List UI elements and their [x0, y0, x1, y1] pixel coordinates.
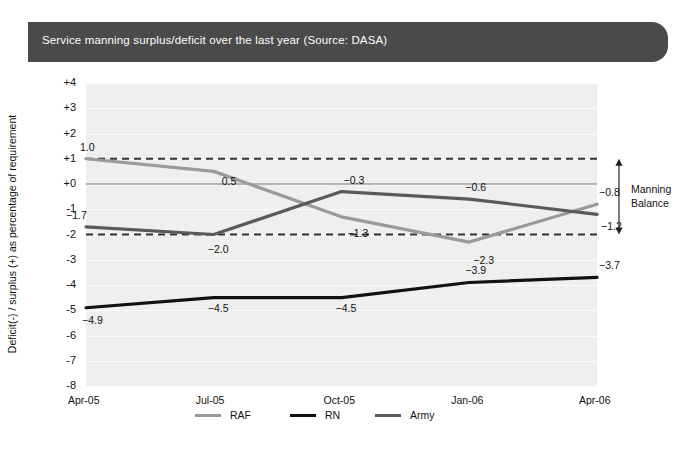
legend-swatch-icon — [290, 414, 316, 417]
legend-swatch-icon — [195, 414, 221, 417]
legend-label: RAF — [230, 409, 251, 421]
title-banner: Service manning surplus/deficit over the… — [28, 22, 668, 62]
chart-legend: RAFRNArmy — [0, 409, 690, 433]
chart-container: Deficit(-) / surplus (+) as percentage o… — [0, 70, 690, 462]
manning-balance-line2: Balance — [631, 196, 671, 210]
legend-item-army[interactable]: Army — [375, 409, 435, 421]
chart-page: Service manning surplus/deficit over the… — [0, 0, 690, 462]
legend-label: RN — [325, 409, 340, 421]
legend-item-rn[interactable]: RN — [290, 409, 340, 421]
manning-balance-line1: Manning — [631, 182, 671, 196]
legend-item-raf[interactable]: RAF — [195, 409, 251, 421]
manning-balance-arrow — [0, 70, 690, 462]
legend-label: Army — [410, 409, 435, 421]
legend-swatch-icon — [375, 414, 401, 417]
manning-balance-arrowhead — [615, 159, 622, 166]
manning-balance-arrowhead — [615, 228, 622, 235]
manning-balance-label: Manning Balance — [631, 182, 671, 210]
page-title: Service manning surplus/deficit over the… — [42, 34, 387, 46]
